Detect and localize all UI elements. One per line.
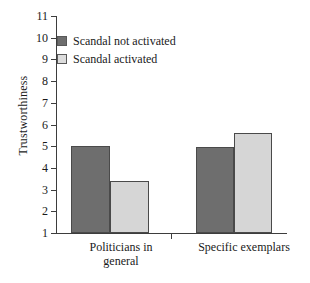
y-tick-label: 2 bbox=[42, 205, 48, 217]
y-tick-label: 8 bbox=[42, 75, 48, 87]
legend-swatch-icon-dark bbox=[57, 36, 67, 46]
y-tick-label: 1 bbox=[42, 227, 48, 239]
y-tick-mark bbox=[51, 233, 56, 234]
y-tick-label: 10 bbox=[36, 32, 48, 44]
y-tick-mark bbox=[51, 125, 56, 126]
x-axis-group-separator-tick bbox=[171, 233, 172, 239]
legend-label-scandal-not-activated: Scandal not activated bbox=[73, 35, 176, 47]
y-tick-mark bbox=[51, 81, 56, 82]
bar bbox=[196, 147, 234, 233]
y-tick-label: 11 bbox=[36, 10, 48, 22]
x-category-label: Specific exemplars bbox=[174, 240, 310, 254]
y-tick-label: 6 bbox=[42, 119, 48, 131]
legend-label-scandal-activated: Scandal activated bbox=[73, 53, 157, 65]
bar-chart: Trustworthiness 1234567891011 Politician… bbox=[0, 0, 310, 283]
x-category-label: Politicians in general bbox=[51, 240, 191, 268]
y-tick-mark bbox=[51, 146, 56, 147]
legend-item-scandal-not-activated: Scandal not activated bbox=[57, 32, 176, 50]
legend: Scandal not activated Scandal activated bbox=[57, 32, 176, 68]
y-tick-label: 4 bbox=[42, 162, 48, 174]
y-tick-mark bbox=[51, 190, 56, 191]
y-tick-mark bbox=[51, 38, 56, 39]
legend-swatch-icon-light bbox=[57, 54, 67, 64]
y-tick-label: 7 bbox=[42, 97, 48, 109]
y-tick-mark bbox=[51, 16, 56, 17]
bar bbox=[234, 133, 272, 233]
y-axis-title: Trustworthiness bbox=[16, 31, 31, 201]
y-tick-mark bbox=[51, 59, 56, 60]
y-tick-mark bbox=[51, 211, 56, 212]
y-tick-mark bbox=[51, 103, 56, 104]
y-tick-label: 3 bbox=[42, 184, 48, 196]
y-tick-mark bbox=[51, 168, 56, 169]
bar bbox=[110, 181, 149, 233]
legend-item-scandal-activated: Scandal activated bbox=[57, 50, 176, 68]
bar bbox=[71, 146, 110, 233]
y-tick-label: 9 bbox=[42, 53, 48, 65]
y-tick-label: 5 bbox=[42, 140, 48, 152]
